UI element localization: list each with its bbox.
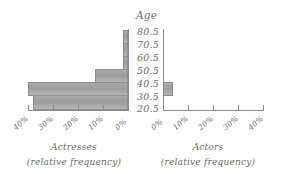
bar-actresses-30-5-40-5 <box>28 82 128 96</box>
left-x-tick-label-40: 40% <box>11 114 30 132</box>
left-x-tick-label-10: 10% <box>86 114 105 132</box>
right-x-tick-label-40: 40% <box>246 114 265 132</box>
bar-actors-30-5-40-5 <box>163 82 173 96</box>
age-axis-title: Age <box>136 9 157 21</box>
left-panel-vertical-axis <box>128 29 129 111</box>
right-panel-caption-sub: (relative frequency) <box>142 157 274 167</box>
right-tick-0 <box>163 105 164 111</box>
bar-actresses-40-5-50-5 <box>95 69 128 83</box>
left-x-tick-label-30: 30% <box>36 114 55 132</box>
left-tick-20 <box>78 105 79 111</box>
left-panel-caption-name: Actresses <box>18 142 130 152</box>
right-tick-30 <box>238 105 239 111</box>
right-x-tick-label-0: 0% <box>149 117 164 132</box>
left-x-tick-label-0: 0% <box>113 117 128 132</box>
right-tick-10 <box>188 105 189 111</box>
left-tick-40 <box>28 105 29 111</box>
y-tick-label-20-5: 20.5 <box>137 104 159 114</box>
left-tick-0 <box>128 105 129 111</box>
left-tick-10 <box>103 105 104 111</box>
left-tick-30 <box>53 105 54 111</box>
age-distribution-chart: Age 80.5 70.5 60.5 50.5 40.5 30.5 20.5 4… <box>0 0 281 180</box>
left-panel-caption-sub: (relative frequency) <box>8 157 140 167</box>
right-x-tick-label-20: 20% <box>196 114 215 132</box>
right-panel-caption-name: Actors <box>152 142 264 152</box>
right-tick-40 <box>263 105 264 111</box>
y-tick-label-70-5: 70.5 <box>137 40 159 50</box>
bar-actresses-20-5-30-5 <box>33 95 128 110</box>
right-tick-20 <box>213 105 214 111</box>
y-tick-label-30-5: 30.5 <box>137 92 159 102</box>
right-x-tick-label-10: 10% <box>171 114 190 132</box>
y-tick-label-50-5: 50.5 <box>137 66 159 76</box>
y-tick-label-80-5: 80.5 <box>137 27 159 37</box>
y-tick-label-60-5: 60.5 <box>137 53 159 63</box>
y-tick-label-40-5: 40.5 <box>137 79 159 89</box>
left-x-tick-label-20: 20% <box>61 114 80 132</box>
right-x-tick-label-30: 30% <box>221 114 240 132</box>
right-panel-vertical-axis <box>163 29 164 111</box>
